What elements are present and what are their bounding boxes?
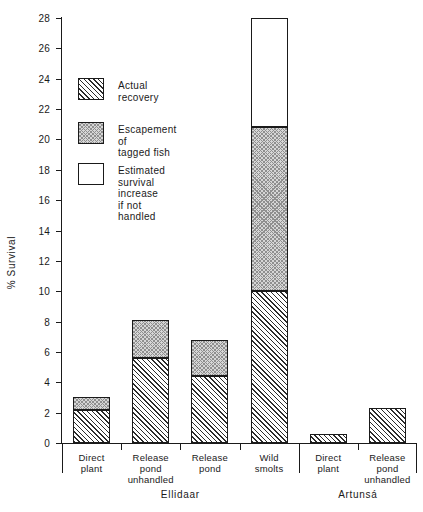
x-axis-category-label: Release pond	[180, 452, 239, 474]
y-axis-tick-label: 24	[24, 73, 50, 84]
bar-segment	[310, 434, 347, 443]
y-axis-tick	[56, 79, 62, 80]
x-axis-category-label: Direct plant	[62, 452, 121, 474]
y-axis-tick-label: 12	[24, 255, 50, 266]
y-axis-tick	[56, 18, 62, 19]
y-axis-tick	[56, 170, 62, 171]
y-axis-tick	[56, 48, 62, 49]
y-axis-tick	[56, 261, 62, 262]
x-axis-tick	[121, 443, 122, 450]
y-axis-tick-label: 26	[24, 43, 50, 54]
bar	[132, 18, 169, 443]
y-axis-tick-label: 2	[24, 407, 50, 418]
x-axis-category-label: Wild smolts	[240, 452, 299, 474]
x-axis-category-label: Release pond unhandled	[358, 452, 417, 485]
bar	[369, 18, 406, 443]
x-axis-category-label: Release pond unhandled	[121, 452, 180, 485]
y-axis-tick	[56, 109, 62, 110]
y-axis-tick	[56, 139, 62, 140]
y-axis-tick-label: 10	[24, 286, 50, 297]
y-axis-tick	[56, 200, 62, 201]
y-axis-tick	[56, 291, 62, 292]
bar-segment	[191, 340, 228, 376]
x-axis-tick	[240, 443, 241, 450]
survival-bar-chart: % Survival Actual recoveryEscapement of …	[0, 0, 423, 512]
y-axis-tick	[56, 413, 62, 414]
y-axis-tick-label: 4	[24, 377, 50, 388]
y-axis-tick-label: 14	[24, 225, 50, 236]
bar-segment	[251, 127, 288, 291]
y-axis-tick-label: 20	[24, 134, 50, 145]
x-axis-group-label: Ellidaar	[62, 489, 299, 500]
group-separator	[299, 443, 300, 473]
y-axis-tick-label: 28	[24, 13, 50, 24]
bar	[251, 18, 288, 443]
bar-segment	[251, 18, 288, 127]
bar	[191, 18, 228, 443]
bar-segment	[73, 410, 110, 443]
bar-segment	[251, 291, 288, 443]
x-axis-tick	[180, 443, 181, 450]
bar-segment	[132, 320, 169, 358]
y-axis-tick-label: 18	[24, 164, 50, 175]
x-axis-left-cap	[62, 443, 63, 473]
y-axis-tick-label: 6	[24, 346, 50, 357]
y-axis-tick	[56, 231, 62, 232]
y-axis-tick-label: 0	[24, 438, 50, 449]
y-axis-tick	[56, 382, 62, 383]
bar	[73, 18, 110, 443]
y-axis-tick-label: 22	[24, 104, 50, 115]
y-axis-tick	[56, 352, 62, 353]
bar	[310, 18, 347, 443]
y-axis-tick-label: 8	[24, 316, 50, 327]
y-axis-tick	[56, 322, 62, 323]
x-axis-category-label: Direct plant	[299, 452, 358, 474]
x-axis-tick	[358, 443, 359, 450]
bar-segment	[191, 376, 228, 443]
x-axis-group-label: Artunsá	[299, 489, 417, 500]
bar-segment	[73, 397, 110, 409]
y-axis-title: % Survival	[6, 236, 17, 289]
y-axis-tick-label: 16	[24, 195, 50, 206]
bar-segment	[369, 408, 406, 443]
bar-segment	[132, 358, 169, 443]
